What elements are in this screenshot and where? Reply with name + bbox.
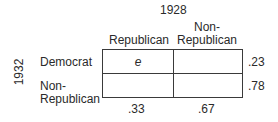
row-marginal-non-republican: .78: [248, 80, 265, 92]
row-marginal-democrat: .23: [248, 56, 265, 68]
row-group-label: 1932: [13, 59, 25, 86]
grid-divider-horizontal: [103, 73, 242, 74]
col-header-label-line2: Republican: [172, 34, 242, 46]
col-marginal-non-republican: .67: [198, 103, 215, 115]
col-header-label-line1: Non-: [172, 21, 242, 33]
row-header-label-line1: Non-: [40, 80, 100, 92]
col-marginal-republican: .33: [128, 103, 145, 115]
row-header-non-republican: Non- Republican: [40, 80, 100, 105]
table-grid: e: [102, 49, 243, 98]
col-header-non-republican: Non- Republican: [172, 21, 242, 46]
row-header-label-line2: Republican: [40, 93, 100, 105]
col-header-republican: Republican: [104, 34, 174, 46]
col-header-label: Republican: [109, 33, 169, 47]
row-header-democrat: Democrat: [40, 56, 92, 68]
col-group-label: 1928: [160, 4, 187, 16]
cell-democrat-republican: e: [103, 56, 173, 68]
